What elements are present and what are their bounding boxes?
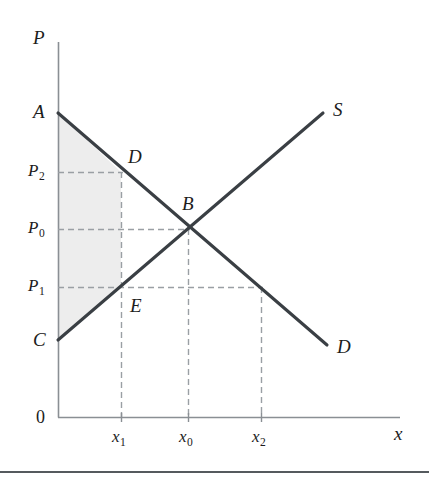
tick-label-p0-base: P <box>28 218 38 237</box>
origin-label: 0 <box>36 408 45 426</box>
price-axis-label: P <box>33 28 45 47</box>
tick-label-p0: P0 <box>28 219 45 236</box>
tick-label-p1-sub: 1 <box>38 285 44 298</box>
tick-label-x0-sub: 0 <box>187 436 193 449</box>
tick-label-p2: P2 <box>28 162 45 179</box>
demand-curve-label: D <box>337 337 351 356</box>
point-label-b: B <box>182 194 194 213</box>
tick-label-x2: x2 <box>252 428 266 445</box>
tick-label-x2-sub: 2 <box>260 436 266 449</box>
supply-curve-label: S <box>333 100 343 119</box>
tick-label-p2-base: P <box>28 161 38 180</box>
tick-label-p1: P1 <box>28 277 45 294</box>
tick-label-p0-sub: 0 <box>38 227 44 240</box>
quantity-axis-label: x <box>394 424 402 443</box>
point-label-c: C <box>33 330 46 349</box>
tick-label-x2-base: x <box>252 427 260 446</box>
tick-label-p1-base: P <box>28 276 38 295</box>
tick-label-x0: x0 <box>179 428 193 445</box>
bottom-divider <box>0 471 429 473</box>
chart-canvas <box>0 0 429 489</box>
tick-label-x0-base: x <box>179 427 187 446</box>
tick-label-p2-sub: 2 <box>38 170 44 183</box>
shaded-surplus-region <box>58 113 121 340</box>
point-label-a: A <box>33 102 45 121</box>
tick-label-x1-base: x <box>112 427 120 446</box>
point-label-d: D <box>128 147 142 166</box>
tick-label-x1-sub: 1 <box>120 436 126 449</box>
tick-label-x1: x1 <box>112 428 126 445</box>
point-label-e: E <box>130 296 142 315</box>
supply-demand-figure: P x 0 P2 P0 P1 x1 x0 x2 A B C D E S D <box>0 0 429 489</box>
